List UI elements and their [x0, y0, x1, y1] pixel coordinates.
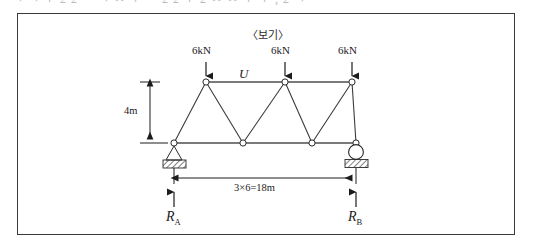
top-chord-label-u: U: [239, 66, 248, 82]
pin-support-left: [163, 146, 186, 168]
reaction-subscript-a: A: [175, 217, 181, 227]
height-dimension-label: 4m: [124, 105, 137, 116]
joint-node: [309, 140, 315, 146]
joint-node: [203, 79, 209, 85]
reaction-subscript-b: B: [357, 217, 363, 227]
truss-diagram: [0, 0, 535, 248]
joint-node: [282, 79, 288, 85]
load-arrows: [206, 62, 352, 76]
diagonal-member: [312, 82, 352, 143]
span-dimension-label: 3×6=18m: [234, 182, 275, 193]
diagonal-member: [206, 82, 243, 143]
load-label-3: 6kN: [338, 44, 357, 56]
diagonal-member: [352, 82, 356, 143]
joint-node: [240, 140, 246, 146]
joint-node: [349, 79, 355, 85]
diagonal-member: [174, 82, 206, 143]
roller-support-right: [345, 145, 368, 168]
reaction-label-b: RB: [348, 209, 362, 227]
truss-joints: [171, 79, 359, 146]
reaction-symbol-a: R: [166, 209, 175, 224]
reaction-label-a: RA: [166, 209, 181, 227]
truss-members: [174, 82, 357, 143]
reaction-symbol-b: R: [348, 209, 357, 224]
load-label-2: 6kN: [271, 44, 290, 56]
load-label-1: 6kN: [192, 44, 211, 56]
figure-root: ㄱ ㄱ ㅜ 2 2 ㅡ ㄱ ㅅ ㅜ ㅡ 2 2 ㅜ 2 ㅅ ㅅ ㅜ ㅜ , 2 …: [0, 0, 535, 248]
height-dimension: [140, 82, 168, 143]
reaction-arrows: [174, 192, 356, 207]
diagonal-member: [285, 82, 312, 143]
diagonal-member: [243, 82, 285, 143]
